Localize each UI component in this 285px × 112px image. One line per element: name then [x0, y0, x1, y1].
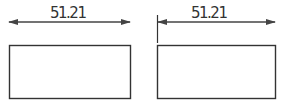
left-rectangle: [10, 46, 131, 99]
right-dimension-label: 51.21: [191, 4, 227, 22]
left-dimension-label: 51.21: [50, 4, 86, 22]
right-rectangle: [158, 46, 276, 99]
right-figure: 51.21: [158, 4, 276, 99]
left-figure: 51.21: [9, 4, 131, 99]
dimension-diagram: 51.21 51.21: [0, 0, 285, 112]
